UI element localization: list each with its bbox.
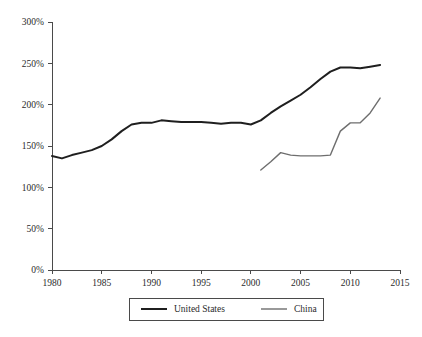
x-tick-label: 1995 — [192, 278, 211, 288]
x-tick-label: 1980 — [43, 278, 62, 288]
chart-container: 0%50%100%150%200%250%300% 19801985199019… — [0, 0, 422, 337]
y-tick-label: 100% — [22, 183, 44, 193]
y-axis-ticks: 0%50%100%150%200%250%300% — [22, 17, 52, 275]
x-axis-ticks: 19801985199019952000200520102015 — [43, 270, 410, 288]
y-tick-label: 250% — [22, 59, 44, 69]
legend-label-united-states: United States — [174, 304, 225, 314]
data-series-group — [52, 65, 380, 170]
y-tick-label: 0% — [31, 265, 44, 275]
chart-legend: United StatesChina — [129, 298, 323, 320]
y-tick-label: 50% — [27, 224, 45, 234]
x-tick-label: 2005 — [291, 278, 310, 288]
x-tick-label: 1985 — [92, 278, 111, 288]
y-tick-label: 200% — [22, 100, 44, 110]
x-tick-label: 2010 — [341, 278, 360, 288]
y-tick-label: 150% — [22, 141, 44, 151]
x-tick-label: 2015 — [391, 278, 410, 288]
legend-label-china: China — [294, 304, 317, 314]
line-chart: 0%50%100%150%200%250%300% 19801985199019… — [0, 0, 422, 337]
series-line-united-states — [52, 65, 380, 158]
x-tick-label: 1990 — [142, 278, 161, 288]
x-tick-label: 2000 — [241, 278, 260, 288]
y-tick-label: 300% — [22, 17, 44, 27]
